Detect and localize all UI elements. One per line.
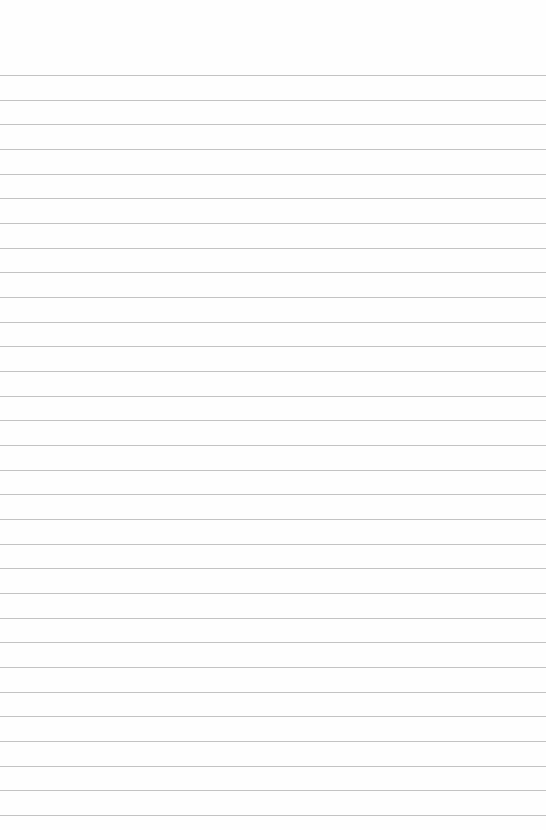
ruled-line xyxy=(0,396,546,397)
ruled-line xyxy=(0,692,546,693)
ruled-line xyxy=(0,741,546,742)
ruled-line xyxy=(0,568,546,569)
ruled-line xyxy=(0,75,546,76)
ruled-line xyxy=(0,100,546,101)
ruled-line xyxy=(0,223,546,224)
ruled-line xyxy=(0,371,546,372)
ruled-line xyxy=(0,815,546,816)
ruled-line xyxy=(0,494,546,495)
ruled-line xyxy=(0,766,546,767)
ruled-line xyxy=(0,248,546,249)
lined-paper-sheet xyxy=(0,0,546,830)
ruled-line xyxy=(0,346,546,347)
ruled-line xyxy=(0,420,546,421)
ruled-line xyxy=(0,174,546,175)
ruled-line xyxy=(0,716,546,717)
ruled-line xyxy=(0,198,546,199)
ruled-line xyxy=(0,124,546,125)
ruled-line xyxy=(0,667,546,668)
ruled-line xyxy=(0,593,546,594)
ruled-line xyxy=(0,544,546,545)
ruled-line xyxy=(0,322,546,323)
ruled-line xyxy=(0,297,546,298)
ruled-line xyxy=(0,790,546,791)
ruled-line xyxy=(0,470,546,471)
ruled-line xyxy=(0,149,546,150)
ruled-line xyxy=(0,519,546,520)
ruled-line xyxy=(0,618,546,619)
ruled-line xyxy=(0,272,546,273)
ruled-line xyxy=(0,642,546,643)
ruled-line xyxy=(0,445,546,446)
